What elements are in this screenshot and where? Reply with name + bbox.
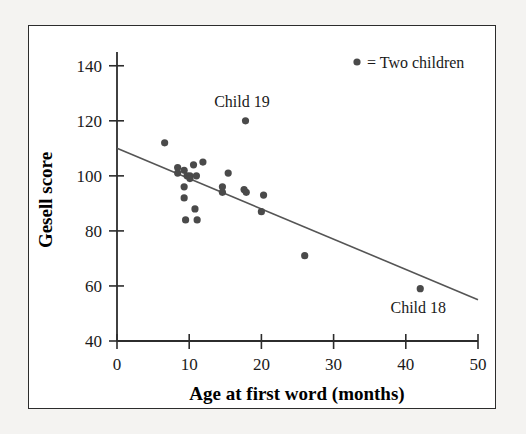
data-point: [190, 161, 197, 168]
data-point: [194, 216, 201, 223]
data-point: [193, 172, 200, 179]
data-point: [219, 189, 226, 196]
data-point: [191, 205, 198, 212]
data-point: [181, 183, 188, 190]
x-tick-label: 50: [470, 355, 487, 374]
data-point: [182, 216, 189, 223]
figure-root: 406080100120140 01020304050 Child 19Chil…: [0, 0, 526, 434]
legend-label: = Two children: [367, 54, 464, 71]
point-annotation-label: Child 18: [390, 299, 446, 316]
data-point: [258, 208, 265, 215]
y-axis-title: Gesell score: [35, 152, 56, 248]
axes: [117, 52, 478, 341]
x-axis-ticks: 01020304050: [113, 334, 487, 374]
data-point: [260, 192, 267, 199]
point-annotation-label: Child 19: [214, 93, 270, 110]
y-tick-label: 100: [77, 167, 103, 186]
data-point: [161, 139, 168, 146]
y-tick-label: 60: [85, 277, 102, 296]
filled-circle-icon: [353, 58, 360, 65]
data-point: [174, 170, 181, 177]
x-tick-label: 30: [325, 355, 342, 374]
scatter-plot: 406080100120140 01020304050 Child 19Chil…: [0, 0, 526, 434]
data-point: [243, 189, 250, 196]
data-point: [186, 175, 193, 182]
data-point: [225, 170, 232, 177]
y-tick-label: 40: [85, 332, 102, 351]
data-point: [242, 117, 249, 124]
regression-line: [117, 148, 478, 299]
x-axis-title: Age at first word (months): [189, 383, 404, 405]
data-point-group: [161, 117, 424, 292]
data-point: [181, 194, 188, 201]
data-point: [199, 158, 206, 165]
y-tick-label: 80: [85, 222, 102, 241]
data-point: [417, 285, 424, 292]
x-tick-label: 0: [113, 355, 122, 374]
legend: = Two children: [353, 54, 464, 71]
y-tick-label: 140: [77, 57, 103, 76]
y-tick-label: 120: [77, 112, 103, 131]
data-point: [301, 252, 308, 259]
x-tick-label: 10: [181, 355, 198, 374]
x-tick-label: 20: [253, 355, 270, 374]
x-tick-label: 40: [397, 355, 414, 374]
